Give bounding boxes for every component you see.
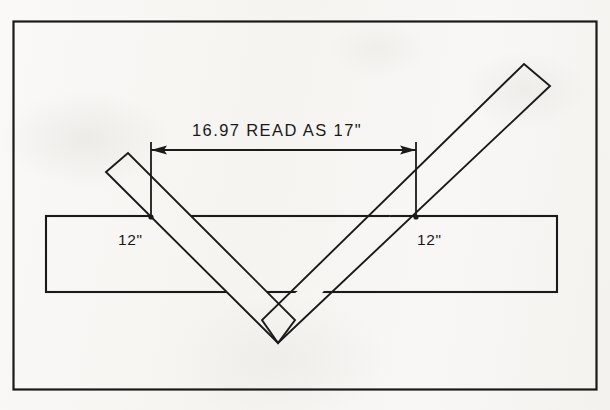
intersection-point-left	[148, 214, 153, 219]
drawing-page: V-brace across horizontal board dimensio…	[0, 0, 610, 410]
span-dimension: 16.97 READ AS 17"	[148, 121, 418, 220]
intersection-point-right	[413, 214, 418, 219]
drawing-frame	[14, 22, 597, 390]
right-leg-dimension-label: 12"	[417, 231, 442, 248]
span-dimension-label: 16.97 READ AS 17"	[192, 121, 362, 139]
technical-drawing-canvas: V-brace across horizontal board dimensio…	[0, 0, 610, 410]
v-brace-right-leg	[262, 64, 550, 343]
v-brace	[106, 64, 550, 343]
left-leg-dimension-label: 12"	[118, 231, 143, 248]
